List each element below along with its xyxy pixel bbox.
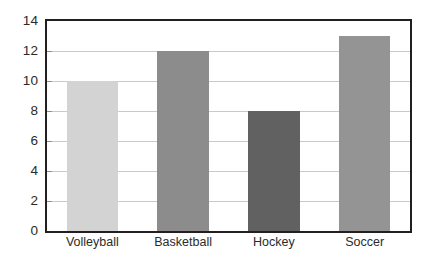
plot-frame — [45, 19, 412, 233]
y-axis-tick-mark — [47, 141, 52, 142]
y-axis-tick-mark — [47, 201, 52, 202]
y-axis-tick-mark — [47, 171, 52, 172]
y-axis-tick-label: 8 — [8, 104, 38, 118]
y-axis-tick-label: 2 — [8, 194, 38, 208]
bar-chart: 02468101214 VolleyballBasketballHockeySo… — [0, 0, 426, 264]
bar — [67, 81, 118, 231]
bar — [248, 111, 299, 231]
x-axis-tick-label: Hockey — [253, 236, 295, 250]
y-axis-tick-mark — [47, 81, 52, 82]
y-axis-tick-label: 10 — [8, 74, 38, 88]
y-axis-tick-label: 14 — [8, 14, 38, 28]
y-axis-tick-label: 4 — [8, 164, 38, 178]
x-axis-tick-labels: VolleyballBasketballHockeySoccer — [45, 236, 412, 260]
y-axis-tick-label: 0 — [8, 224, 38, 238]
bar — [339, 36, 390, 231]
y-axis-tick-labels: 02468101214 — [8, 0, 38, 264]
y-axis-tick-mark — [47, 51, 52, 52]
bar — [157, 51, 208, 231]
y-axis-tick-label: 6 — [8, 134, 38, 148]
y-axis-tick-mark — [47, 111, 52, 112]
x-axis-tick-label: Soccer — [345, 236, 384, 250]
y-axis-tick-label: 12 — [8, 44, 38, 58]
plot-area — [47, 21, 410, 231]
x-axis-tick-label: Basketball — [154, 236, 212, 250]
x-axis-tick-label: Volleyball — [66, 236, 119, 250]
